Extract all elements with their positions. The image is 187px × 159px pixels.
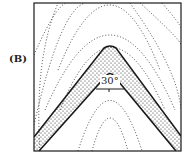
stippled-layer xyxy=(34,46,181,151)
geologic-map-diagram xyxy=(0,0,187,159)
dip-angle-label: 30° xyxy=(100,75,120,86)
